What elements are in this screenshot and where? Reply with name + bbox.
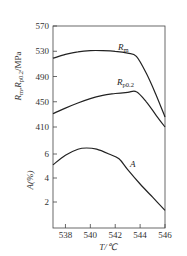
a-curve <box>53 148 165 210</box>
y-tick-label: 570 <box>36 21 50 31</box>
y-tick-label: 450 <box>36 97 50 107</box>
y-tick-label: 530 <box>36 46 50 56</box>
upper-y-axis: 410450490530570 <box>36 21 58 132</box>
x-tick-label: 546 <box>158 230 172 240</box>
y-tick-label: 6 <box>45 149 50 159</box>
upper-y-axis-title: Rm,Rp0.2/MPa <box>13 51 24 101</box>
x-tick-label: 542 <box>108 230 122 240</box>
chart-canvas: 410450490530570 246 538540542544546 Rm R… <box>0 0 187 256</box>
series-label-rm: Rm <box>117 42 129 53</box>
rp02-curve <box>53 91 165 127</box>
x-tick-label: 540 <box>84 230 98 240</box>
y-tick-label: 4 <box>45 173 50 183</box>
x-tick-label: 544 <box>133 230 147 240</box>
series-label-a: A <box>129 159 136 169</box>
lower-y-axis: 246 <box>45 149 58 207</box>
series-label-rp02: Rp0.2 <box>116 77 134 88</box>
lower-y-axis-title: A(%) <box>25 171 35 191</box>
y-tick-label: 410 <box>36 122 50 132</box>
x-axis: 538540542544546 <box>59 224 173 240</box>
x-tick-label: 538 <box>59 230 73 240</box>
y-tick-label: 2 <box>45 197 50 207</box>
x-axis-title: T/℃ <box>99 242 118 252</box>
rm-curve <box>53 50 165 116</box>
plot-frame <box>53 26 165 228</box>
y-tick-label: 490 <box>36 72 50 82</box>
